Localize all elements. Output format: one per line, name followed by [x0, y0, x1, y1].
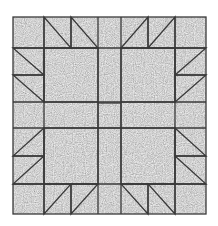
- paw-pad-bottom-left: [44, 128, 98, 184]
- quilt-block-diagram: [0, 0, 218, 226]
- paw-pad-top-left: [44, 48, 98, 102]
- paw-pad-bottom-right: [121, 128, 175, 184]
- paw-pad-top-right: [121, 48, 175, 102]
- center-square: [98, 103, 121, 128]
